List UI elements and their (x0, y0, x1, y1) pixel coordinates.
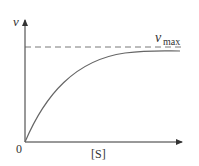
x-axis-label: [S] (91, 147, 106, 161)
vmax-label: v (155, 30, 162, 45)
saturation-chart: v 0 [S] v max (0, 0, 199, 166)
saturation-curve (25, 51, 180, 142)
y-axis-label: v (13, 14, 19, 29)
vmax-subscript: max (163, 36, 180, 47)
origin-label: 0 (16, 142, 22, 156)
